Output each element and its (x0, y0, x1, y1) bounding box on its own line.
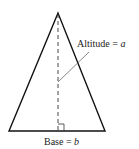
triangle-diagram: Altitude = a Base = b (0, 0, 139, 149)
right-angle-marker (58, 124, 64, 131)
triangle (9, 13, 105, 131)
altitude-label: Altitude = a (77, 38, 125, 49)
base-label: Base = b (44, 136, 79, 147)
